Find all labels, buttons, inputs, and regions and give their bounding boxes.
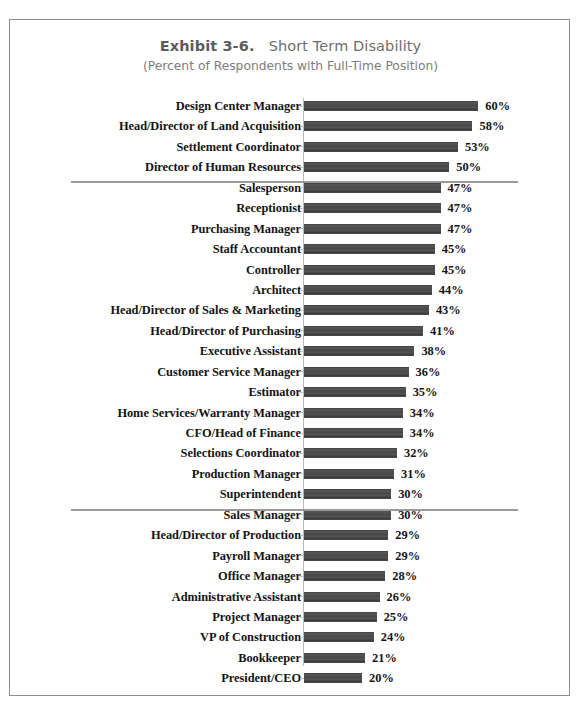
bar-value-label: 34% — [410, 403, 435, 423]
bar — [304, 346, 414, 356]
bar-row: Receptionist47% — [10, 198, 571, 218]
bar-row: Head/Director of Purchasing41% — [10, 321, 571, 341]
bar — [304, 571, 385, 581]
bar-row: CFO/Head of Finance34% — [10, 423, 571, 443]
chart-page: Exhibit 3-6. Short Term Disability (Perc… — [0, 0, 584, 711]
bar — [304, 530, 388, 540]
chart-title-text: Short Term Disability — [269, 38, 422, 54]
bar-category-label: Architect — [252, 280, 301, 300]
bar — [304, 653, 365, 663]
bar — [304, 367, 409, 377]
bar-chart-plot: Design Center Manager60%Head/Director of… — [10, 96, 571, 688]
bar-value-label: 38% — [421, 341, 446, 361]
bar-category-label: Head/Director of Land Acquisition — [119, 116, 301, 136]
bar-value-label: 47% — [448, 198, 473, 218]
bar-category-label: Settlement Coordinator — [176, 137, 301, 157]
bar — [304, 121, 472, 131]
bar — [304, 203, 441, 213]
bar — [304, 265, 435, 275]
bar — [304, 592, 380, 602]
bar-value-label: 44% — [439, 280, 464, 300]
bar — [304, 101, 478, 111]
bar-row: Payroll Manager29% — [10, 546, 571, 566]
bar-row: Bookkeeper21% — [10, 648, 571, 668]
bar-value-label: 25% — [384, 607, 409, 627]
bar-category-label: Superintendent — [220, 484, 301, 504]
chart-frame: Exhibit 3-6. Short Term Disability (Perc… — [9, 19, 570, 696]
bar-category-label: Home Services/Warranty Manager — [117, 403, 301, 423]
bar-value-label: 41% — [430, 321, 455, 341]
bar — [304, 305, 429, 315]
bar-value-label: 34% — [410, 423, 435, 443]
bar-category-label: Head/Director of Sales & Marketing — [110, 300, 301, 320]
bar-row: Settlement Coordinator53% — [10, 137, 571, 157]
bar-category-label: CFO/Head of Finance — [186, 423, 301, 443]
bar-row: Head/Director of Sales & Marketing43% — [10, 300, 571, 320]
bar — [304, 285, 432, 295]
bar — [304, 428, 403, 438]
bar-row: Architect44% — [10, 280, 571, 300]
bar-row: Staff Accountant45% — [10, 239, 571, 259]
bar — [304, 551, 388, 561]
bar — [304, 448, 397, 458]
bar-category-label: Estimator — [248, 382, 301, 402]
bar-value-label: 50% — [456, 157, 481, 177]
bar-category-label: Administrative Assistant — [172, 587, 301, 607]
bar-category-label: Head/Director of Production — [151, 525, 301, 545]
bar-value-label: 45% — [442, 260, 467, 280]
bar — [304, 469, 394, 479]
bar-row: VP of Construction24% — [10, 627, 571, 647]
bar-category-label: Executive Assistant — [200, 341, 301, 361]
bar-row: Head/Director of Production29% — [10, 525, 571, 545]
bar-value-label: 47% — [448, 219, 473, 239]
bar-value-label: 29% — [395, 525, 420, 545]
bar-value-label: 36% — [416, 362, 441, 382]
bar-value-label: 24% — [381, 627, 406, 647]
bar — [304, 612, 377, 622]
bar-value-label: 45% — [442, 239, 467, 259]
bar — [304, 632, 374, 642]
bar-category-label: Head/Director of Purchasing — [150, 321, 301, 341]
bar — [304, 183, 441, 193]
chart-subtitle: (Percent of Respondents with Full-Time P… — [10, 57, 571, 76]
bar-value-label: 32% — [404, 443, 429, 463]
bar-row: Project Manager25% — [10, 607, 571, 627]
bar-category-label: Design Center Manager — [176, 96, 301, 116]
bar-row: Superintendent30% — [10, 484, 571, 504]
bar — [304, 326, 423, 336]
bar — [304, 489, 391, 499]
bar-category-label: Customer Service Manager — [157, 362, 301, 382]
bar-row: Purchasing Manager47% — [10, 219, 571, 239]
bar-row: Office Manager28% — [10, 566, 571, 586]
bar-category-label: Staff Accountant — [213, 239, 301, 259]
bar-value-label: 43% — [436, 300, 461, 320]
bar-value-label: 31% — [401, 464, 426, 484]
exhibit-number: Exhibit 3-6. — [160, 38, 255, 54]
bar-row: President/CEO20% — [10, 668, 571, 688]
bar-value-label: 58% — [479, 116, 504, 136]
bar-row: Customer Service Manager36% — [10, 362, 571, 382]
bar-category-label: Director of Human Resources — [145, 157, 301, 177]
bar-rows-container: Design Center Manager60%Head/Director of… — [10, 96, 571, 689]
bar-value-label: 28% — [392, 566, 417, 586]
bar-category-label: Bookkeeper — [238, 648, 301, 668]
bar-category-label: Office Manager — [218, 566, 301, 586]
bar-row: Design Center Manager60% — [10, 96, 571, 116]
bar-value-label: 53% — [465, 137, 490, 157]
bar-row: Head/Director of Land Acquisition58% — [10, 116, 571, 136]
bar — [304, 142, 458, 152]
bar-row: Controller45% — [10, 260, 571, 280]
group-separator — [71, 181, 518, 183]
bar-value-label: 20% — [369, 668, 394, 688]
bar-category-label: Payroll Manager — [212, 546, 301, 566]
bar-category-label: VP of Construction — [200, 627, 301, 647]
bar-row: Selections Coordinator32% — [10, 443, 571, 463]
bar-category-label: Receptionist — [236, 198, 301, 218]
bar-row: Director of Human Resources50% — [10, 157, 571, 177]
bar-value-label: 21% — [372, 648, 397, 668]
bar-row: Production Manager31% — [10, 464, 571, 484]
bar-value-label: 60% — [485, 96, 510, 116]
bar-row: Home Services/Warranty Manager34% — [10, 403, 571, 423]
bar-row: Administrative Assistant26% — [10, 587, 571, 607]
bar-category-label: Production Manager — [192, 464, 301, 484]
